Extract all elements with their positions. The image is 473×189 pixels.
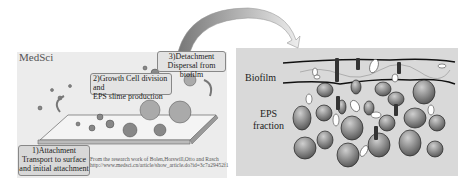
stage-1-title: 1)Attachment: [19, 146, 89, 155]
watermark: MedSci: [19, 51, 53, 63]
stage-2-label: 2)Growth Cell division and EPS slime pro…: [90, 73, 172, 95]
stage-2-title: 2)Growth Cell division and: [93, 74, 171, 92]
stage-3-label: 3)Detachment Dispersal from biofilm: [157, 51, 226, 72]
eps-spheres: [293, 80, 445, 167]
stage-1-description: Transport to surface and initial attachm…: [19, 155, 89, 173]
stage-1-label: 1)Attachment Transport to surface and in…: [18, 145, 90, 176]
biofilm-label: Biofilm: [245, 72, 276, 84]
stage-3-title: 3)Detachment: [158, 52, 225, 61]
eps-label-line1: EPS: [253, 108, 284, 120]
source-credit: From the research work of Bolen,Horswill…: [90, 156, 229, 168]
stage-2-description: EPS slime production: [93, 92, 171, 101]
curved-arrow-icon: [178, 8, 300, 52]
biofilm-layer: [283, 59, 455, 84]
eps-label-line2: fraction: [253, 120, 284, 132]
credit-url: http://www.medsci.cn/article/show_articl…: [90, 162, 229, 168]
eps-label: EPS fraction: [253, 108, 284, 132]
